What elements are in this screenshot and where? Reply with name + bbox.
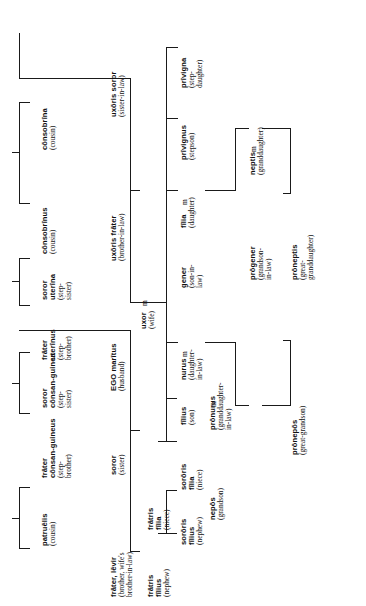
- connector-line: [19, 102, 30, 103]
- node-english: (stepson): [188, 125, 196, 160]
- node-english: (cousin): [49, 513, 57, 546]
- node-latin: sororuterīna: [41, 274, 57, 300]
- node-english: (nephew): [163, 569, 171, 597]
- node-english: (sister): [118, 454, 126, 475]
- node-privigna[interactable]: prīvigna (step-daughter): [180, 58, 204, 88]
- connector-line: [19, 203, 30, 204]
- connector-line: [130, 430, 140, 431]
- connector-line: [19, 352, 30, 353]
- connector-line: [19, 305, 30, 306]
- node-soror-uterina[interactable]: sororuterīna (step-sister): [41, 274, 73, 300]
- node-english: (great-granddaughter): [299, 235, 315, 280]
- node-privignus[interactable]: prīvignus (stepson): [180, 125, 196, 160]
- node-frater-levir[interactable]: frāter, lēvir (brother, wife'sbrother-in…: [110, 552, 134, 597]
- connector-line: [235, 405, 249, 406]
- connector-line: [12, 383, 20, 384]
- node-latin: sororcōnsan-guinea: [41, 353, 57, 408]
- connector-line: [166, 490, 177, 491]
- connector-line: [290, 340, 291, 406]
- node-soror-consanguinea[interactable]: sororcōnsan-guinea (step-sister): [41, 353, 73, 408]
- connector-line: [166, 398, 167, 442]
- node-english: (nephew): [196, 517, 204, 545]
- node-english: (grandson-in-law): [257, 246, 273, 280]
- connector-line: [12, 152, 20, 153]
- node-english: (granddaughter): [257, 127, 265, 175]
- node-english: (daughter-in-law): [188, 349, 204, 380]
- node-uxoris-soror[interactable]: uxōris soror (sister-in-law): [110, 71, 126, 117]
- kinship-diagram: cōnsobrīna (cousin) cōnsobrīnus (cousin)…: [0, 0, 366, 606]
- node-latin: sorōrisfīlia: [180, 464, 196, 490]
- connector-line: [166, 398, 177, 399]
- node-latin: frātrisfīlius: [147, 569, 163, 597]
- node-consobrina[interactable]: cōnsobrīna (cousin): [41, 108, 57, 150]
- connector-line: [290, 128, 291, 194]
- connector-line: [130, 190, 140, 191]
- node-soror[interactable]: soror (sister): [110, 454, 126, 475]
- node-english: (step-daughter): [188, 58, 204, 88]
- connector-line: [12, 281, 20, 282]
- node-english: (cousin): [49, 108, 57, 150]
- connector-line: [12, 518, 20, 519]
- connector-line: [235, 342, 236, 406]
- connector-line: [19, 33, 20, 79]
- node-english: (wife): [148, 311, 156, 329]
- node-english: (step-sister): [57, 353, 73, 408]
- node-english: (daughter): [188, 197, 196, 228]
- marriage-mark-nurus: m: [180, 351, 189, 357]
- node-english: (son-in-law): [188, 265, 204, 288]
- connector-line: [283, 193, 291, 194]
- node-uxoris-frater[interactable]: uxōris frāter (brother-in-law): [110, 214, 126, 261]
- node-english: (cousin): [49, 207, 57, 254]
- connector-line: [283, 340, 291, 341]
- node-pronepos[interactable]: prōnepōs (great-grandson): [291, 406, 307, 455]
- marriage-mark-pronurus: m: [209, 401, 218, 407]
- connector-line: [19, 548, 30, 549]
- node-gener[interactable]: gener (son-in-law): [180, 265, 204, 288]
- connector-line: [235, 128, 236, 191]
- node-uxor[interactable]: uxor (wife): [140, 311, 156, 329]
- connector-line: [166, 342, 178, 343]
- node-latin: sorōrisfīlius: [180, 517, 196, 545]
- connector-line: [19, 413, 30, 414]
- node-fratris-filius[interactable]: frātrisfīlius (nephew): [147, 569, 171, 597]
- connector-line: [205, 342, 235, 343]
- node-patruelis[interactable]: patruēlis (cousin): [41, 513, 57, 546]
- marriage-mark-progener: m: [249, 146, 258, 152]
- node-latin: frātercōnsan-guineus: [41, 418, 57, 478]
- node-proneptis[interactable]: prōneptis (great-granddaughter): [291, 235, 315, 280]
- node-english: (brother, wife'sbrother-in-law): [118, 552, 134, 597]
- node-sororis-filia[interactable]: sorōrisfīlia (niece): [180, 464, 204, 490]
- node-english: (granddaughter-in-law): [217, 383, 233, 430]
- node-filius[interactable]: fīlius (son): [180, 407, 196, 425]
- connector-line: [19, 330, 131, 331]
- node-fratris-filia[interactable]: frātrisfīlia (niece): [147, 508, 171, 530]
- connector-line: [130, 330, 131, 552]
- node-latin: frātrisfīlia: [147, 508, 163, 530]
- node-english: (husband): [118, 343, 126, 391]
- node-progener[interactable]: prōgener (grandson-in-law): [249, 246, 273, 280]
- connector-line: [235, 128, 249, 129]
- node-english: (sister-in-law): [118, 71, 126, 117]
- connector-line: [19, 258, 30, 259]
- connector-line: [166, 118, 178, 119]
- node-frater-consanguineus[interactable]: frātercōnsan-guineus (step-brother): [41, 418, 73, 478]
- node-nepos[interactable]: nepōs (grandson): [209, 488, 225, 520]
- connector-line: [166, 190, 178, 191]
- node-english: (niece): [163, 508, 171, 530]
- marriage-mark-gener: m: [180, 199, 189, 205]
- node-english: (niece): [196, 464, 204, 490]
- connector-line: [166, 190, 167, 430]
- node-english: (great-grandson): [299, 406, 307, 455]
- connector-line: [19, 487, 30, 488]
- marriage-mark-uxor: m: [140, 300, 149, 306]
- node-english: (grandson): [217, 488, 225, 520]
- node-english: (son): [188, 407, 196, 425]
- connector-line: [262, 405, 290, 406]
- node-ego-maritus[interactable]: EGO marītus (husband): [110, 343, 126, 391]
- node-consobrinus[interactable]: cōnsobrīnus (cousin): [41, 207, 57, 254]
- connector-line: [158, 441, 177, 442]
- connector-line: [166, 47, 178, 48]
- node-sororis-filius[interactable]: sorōrisfīlius (nephew): [180, 517, 204, 545]
- connector-line: [205, 190, 235, 191]
- node-english: (step-sister): [57, 274, 73, 300]
